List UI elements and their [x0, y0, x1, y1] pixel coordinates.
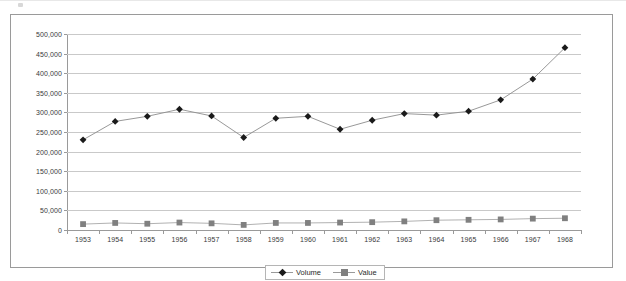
x-tick-mark — [196, 230, 197, 234]
x-tick-label: 1965 — [461, 236, 477, 243]
x-tick-label: 1953 — [75, 236, 91, 243]
y-tick-label: 150,000 — [36, 168, 62, 175]
square-marker-icon — [401, 218, 407, 224]
x-tick-mark — [324, 230, 325, 234]
x-tick-label: 1957 — [204, 236, 220, 243]
diamond-marker-icon — [497, 96, 504, 103]
plot-area: 050,000100,000150,000200,000250,000300,0… — [67, 34, 581, 230]
legend-entry-volume: Volume — [271, 268, 321, 277]
x-tick-label: 1961 — [332, 236, 348, 243]
figure-frame: 050,000100,000150,000200,000250,000300,0… — [10, 14, 613, 268]
y-tick-label: 0 — [58, 227, 62, 234]
y-tick-label: 250,000 — [36, 129, 62, 136]
square-marker-icon — [177, 220, 183, 226]
diamond-marker-icon — [305, 113, 312, 120]
diamond-marker-icon — [240, 134, 247, 141]
x-tick-label: 1962 — [364, 236, 380, 243]
x-tick-mark — [131, 230, 132, 234]
x-tick-mark — [485, 230, 486, 234]
diamond-marker-icon — [465, 108, 472, 115]
series-value — [80, 215, 568, 227]
y-tick-label: 50,000 — [40, 207, 62, 214]
square-marker-icon — [80, 221, 86, 227]
x-tick-label: 1958 — [236, 236, 252, 243]
x-tick-mark — [388, 230, 389, 234]
x-tick-label: 1955 — [139, 236, 155, 243]
x-tick-mark — [549, 230, 550, 234]
series-line — [83, 218, 565, 225]
x-tick-mark — [228, 230, 229, 234]
x-tick-label: 1960 — [300, 236, 316, 243]
diamond-marker-icon — [208, 113, 215, 120]
legend-entry-value: Value — [333, 268, 377, 277]
y-tick-label: 500,000 — [36, 31, 62, 38]
square-marker-icon — [434, 217, 440, 223]
square-marker-icon — [562, 215, 568, 221]
scan-edge — [0, 0, 626, 1]
diamond-marker-icon — [401, 110, 408, 117]
diamond-marker-icon — [337, 126, 344, 133]
square-marker-icon — [209, 220, 215, 226]
x-tick-label: 1954 — [107, 236, 123, 243]
x-tick-label: 1968 — [557, 236, 573, 243]
diamond-marker-icon — [144, 113, 151, 120]
x-tick-mark — [99, 230, 100, 234]
x-tick-mark — [581, 230, 582, 234]
x-tick-label: 1964 — [428, 236, 444, 243]
diamond-marker-icon — [176, 106, 183, 113]
x-tick-mark — [420, 230, 421, 234]
legend-label-value: Value — [358, 268, 377, 277]
series-plot — [67, 34, 581, 230]
y-tick-label: 200,000 — [36, 148, 62, 155]
x-tick-mark — [453, 230, 454, 234]
x-tick-mark — [292, 230, 293, 234]
chart-area: 050,000100,000150,000200,000250,000300,0… — [11, 15, 612, 267]
square-marker-icon — [112, 220, 118, 226]
scan-artifact-speck — [18, 3, 23, 7]
x-tick-mark — [163, 230, 164, 234]
diamond-marker-icon — [80, 136, 87, 143]
x-tick-mark — [260, 230, 261, 234]
square-marker-icon — [273, 220, 279, 226]
x-tick-label: 1956 — [171, 236, 187, 243]
y-tick-label: 400,000 — [36, 70, 62, 77]
x-tick-label: 1967 — [525, 236, 541, 243]
square-marker-icon — [369, 219, 375, 225]
diamond-marker-icon — [272, 115, 279, 122]
diamond-marker-icon — [369, 117, 376, 124]
y-tick-label: 450,000 — [36, 50, 62, 57]
legend-label-volume: Volume — [296, 268, 321, 277]
x-tick-mark — [517, 230, 518, 234]
square-marker-icon — [333, 268, 355, 277]
x-tick-mark — [67, 230, 68, 234]
diamond-marker-icon — [433, 112, 440, 119]
chart-legend: Volume Value — [265, 265, 385, 280]
x-tick-label: 1966 — [493, 236, 509, 243]
x-tick-mark — [356, 230, 357, 234]
square-marker-icon — [530, 216, 536, 222]
diamond-marker-icon — [112, 118, 119, 125]
square-marker-icon — [337, 220, 343, 226]
series-volume — [80, 44, 569, 143]
square-marker-icon — [241, 222, 247, 228]
x-tick-label: 1959 — [268, 236, 284, 243]
y-tick-label: 100,000 — [36, 187, 62, 194]
x-tick-label: 1963 — [396, 236, 412, 243]
square-marker-icon — [498, 217, 504, 223]
square-marker-icon — [466, 217, 472, 223]
diamond-marker-icon — [271, 268, 293, 277]
square-marker-icon — [144, 221, 150, 227]
y-tick-label: 300,000 — [36, 109, 62, 116]
y-tick-label: 350,000 — [36, 89, 62, 96]
series-line — [83, 48, 565, 140]
square-marker-icon — [305, 220, 311, 226]
